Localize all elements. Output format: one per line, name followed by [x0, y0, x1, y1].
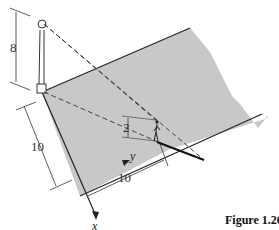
- person-head: [155, 120, 158, 123]
- lamp-post-base: [37, 84, 46, 93]
- pole-height-label: 8: [10, 40, 17, 55]
- dim-tick: [50, 180, 72, 190]
- dim-tick: [10, 8, 30, 16]
- lamp-light: [38, 20, 46, 28]
- figure-caption: Figure 1.26: [225, 213, 279, 227]
- person-height-label: 2: [123, 120, 130, 135]
- lamp-post-pole-left: [39, 30, 40, 84]
- y-axis-label: y: [129, 149, 136, 163]
- bottom-distance-label: 10: [118, 170, 131, 185]
- lamp-post-diagram: x y 8 10 10 2 Figure 1.26: [0, 0, 279, 230]
- x-axis-label: x: [91, 219, 98, 230]
- dim-tick: [16, 102, 36, 110]
- dim-tick: [10, 82, 30, 90]
- left-distance-label: 10: [31, 139, 44, 154]
